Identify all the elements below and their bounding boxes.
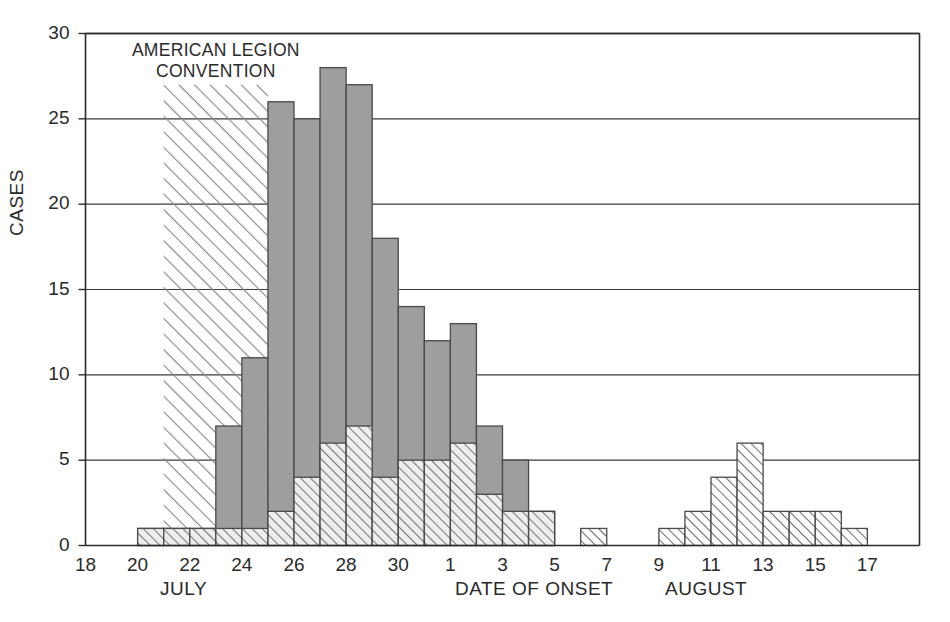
bar-hatched bbox=[711, 477, 737, 545]
bar-gray bbox=[242, 358, 268, 546]
bar-hatched bbox=[789, 511, 815, 545]
bar-hatched bbox=[815, 511, 841, 545]
bar-hatched bbox=[476, 494, 502, 545]
bar-hatched bbox=[841, 528, 867, 545]
bar-hatched bbox=[581, 528, 607, 545]
bar-hatched bbox=[763, 511, 789, 545]
bar-hatched bbox=[503, 511, 529, 545]
plot-area bbox=[0, 0, 950, 622]
bar-hatched bbox=[659, 528, 685, 545]
bar-hatched bbox=[685, 511, 711, 545]
bar-hatched bbox=[529, 511, 555, 545]
bar-hatched bbox=[268, 511, 294, 545]
bar-hatched bbox=[346, 426, 372, 545]
bar-hatched bbox=[398, 460, 424, 545]
bar-gray bbox=[268, 102, 294, 546]
bar-hatched bbox=[372, 477, 398, 545]
bar-hatched bbox=[320, 443, 346, 545]
bar-hatched bbox=[424, 460, 450, 545]
bar-hatched bbox=[450, 443, 476, 545]
bar-hatched bbox=[190, 528, 216, 545]
bar-hatched bbox=[164, 528, 190, 545]
bar-hatched bbox=[294, 477, 320, 545]
epidemic-curve-chart: CASES DATE OF ONSET JULY AUGUST AMERICAN… bbox=[0, 0, 950, 622]
bar-hatched bbox=[138, 528, 164, 545]
bar-hatched bbox=[216, 528, 242, 545]
bar-gray bbox=[216, 426, 242, 545]
bar-hatched bbox=[737, 443, 763, 545]
bar-hatched bbox=[242, 528, 268, 545]
